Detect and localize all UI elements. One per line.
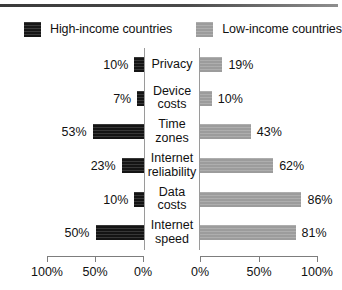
- top-divider-rule: [0, 4, 338, 7]
- dark-swatch-icon: [24, 22, 41, 37]
- axis-right-tick-50: [259, 256, 260, 262]
- bar-low-income: [200, 192, 301, 207]
- category-label: Internetreliability: [145, 152, 199, 179]
- axis-left-tick-50: [95, 256, 96, 262]
- axis-left-ticklabel-2: 0%: [134, 264, 152, 280]
- axis-left: [47, 256, 144, 263]
- bar-high-income: [134, 57, 144, 72]
- bar-high-income: [93, 124, 144, 139]
- chart-legend: High-income countries Low-income countri…: [0, 18, 338, 40]
- bar-group-low-income: 19%: [200, 48, 318, 82]
- chart-row: 53%43%Timezones: [0, 115, 338, 149]
- light-swatch-icon: [196, 22, 213, 37]
- value-label-high-income: 10%: [103, 59, 128, 72]
- category-label: Privacy: [145, 58, 199, 72]
- axis-right-ticklabel-2: 100%: [301, 264, 333, 280]
- value-label-low-income: 43%: [257, 126, 282, 139]
- bar-high-income: [137, 91, 144, 106]
- bar-group-low-income: 62%: [200, 149, 318, 183]
- category-label: Datacosts: [145, 186, 199, 213]
- bar-group-high-income: 50%: [47, 216, 144, 250]
- chart-row: 10%19%Privacy: [0, 48, 338, 82]
- legend-item-low-income: Low-income countries: [196, 22, 342, 37]
- value-label-high-income: 7%: [113, 93, 131, 106]
- chart-row: 50%81%Internetspeed: [0, 216, 338, 250]
- axis-right-ticklabel-1: 50%: [246, 264, 271, 280]
- axis-left-tick-0: [143, 256, 144, 262]
- legend-label-low-income: Low-income countries: [222, 22, 342, 36]
- chart-row: 23%62%Internetreliability: [0, 149, 338, 183]
- bar-group-low-income: 43%: [200, 115, 318, 149]
- value-label-low-income: 19%: [228, 59, 253, 72]
- bar-group-high-income: 53%: [47, 115, 144, 149]
- bar-high-income: [96, 225, 145, 240]
- bar-low-income: [200, 225, 296, 240]
- bar-high-income: [134, 192, 144, 207]
- axis-left-tick-labels: 100% 50% 0%: [47, 264, 144, 280]
- bar-low-income: [200, 124, 251, 139]
- axis-right: [200, 256, 318, 263]
- value-label-low-income: 86%: [307, 194, 332, 207]
- value-label-low-income: 81%: [302, 227, 327, 240]
- chart-row: 7%10%Devicecosts: [0, 82, 338, 116]
- axis-right-tick-labels: 0% 50% 100%: [200, 264, 318, 280]
- axis-left-tick-100: [47, 256, 48, 262]
- value-label-high-income: 10%: [103, 194, 128, 207]
- bar-group-high-income: 10%: [47, 48, 144, 82]
- bar-low-income: [200, 91, 212, 106]
- value-label-high-income: 53%: [62, 126, 87, 139]
- axis-right-tick-100: [317, 256, 318, 262]
- category-label: Devicecosts: [145, 85, 199, 112]
- bar-low-income: [200, 57, 222, 72]
- bar-high-income: [122, 158, 144, 173]
- category-label: Timezones: [145, 118, 199, 145]
- bar-group-high-income: 7%: [47, 82, 144, 116]
- bar-group-low-income: 10%: [200, 82, 318, 116]
- axis-left-ticklabel-1: 50%: [82, 264, 107, 280]
- bar-low-income: [200, 158, 273, 173]
- value-label-low-income: 62%: [279, 160, 304, 173]
- legend-label-high-income: High-income countries: [50, 22, 172, 36]
- chart-plot-area: 10%19%Privacy7%10%Devicecosts53%43%Timez…: [0, 48, 338, 250]
- chart-row: 10%86%Datacosts: [0, 182, 338, 216]
- bar-group-low-income: 81%: [200, 216, 318, 250]
- category-label: Internetspeed: [145, 219, 199, 246]
- bar-group-high-income: 23%: [47, 149, 144, 183]
- value-label-high-income: 23%: [91, 160, 116, 173]
- axis-right-ticklabel-0: 0%: [191, 264, 209, 280]
- bar-group-low-income: 86%: [200, 182, 318, 216]
- bar-group-high-income: 10%: [47, 182, 144, 216]
- legend-item-high-income: High-income countries: [24, 22, 172, 37]
- axis-right-tick-0: [200, 256, 201, 262]
- value-label-low-income: 10%: [218, 93, 243, 106]
- axis-left-ticklabel-0: 100%: [31, 264, 63, 280]
- value-label-high-income: 50%: [64, 227, 89, 240]
